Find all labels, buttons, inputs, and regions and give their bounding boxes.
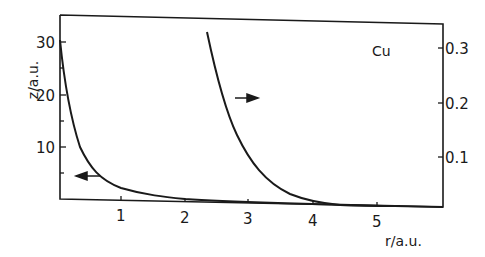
y-left-tick-10: 10 bbox=[36, 139, 55, 157]
x-tick-3: 3 bbox=[243, 210, 253, 228]
y-right-tick-0.3: 0.3 bbox=[445, 40, 469, 58]
y-right-tick-0.1: 0.1 bbox=[445, 149, 469, 167]
x-axis-label: r/a.u. bbox=[385, 233, 422, 249]
chart: 30 20 10 0.3 0.2 0.1 1 2 3 4 5 z/a.u. r/… bbox=[0, 0, 485, 257]
x-tick-4: 4 bbox=[308, 212, 318, 230]
arrow-right-icon bbox=[235, 94, 258, 102]
curve-left-axis bbox=[60, 40, 443, 207]
y-left-tick-30: 30 bbox=[36, 34, 55, 52]
y-axis-label: z/a.u. bbox=[25, 61, 41, 99]
x-tick-5: 5 bbox=[372, 213, 382, 231]
y-right-tick-0.2: 0.2 bbox=[445, 95, 469, 113]
x-tick-2: 2 bbox=[180, 209, 190, 227]
annotation-cu: Cu bbox=[372, 43, 391, 59]
x-tick-1: 1 bbox=[116, 207, 126, 225]
